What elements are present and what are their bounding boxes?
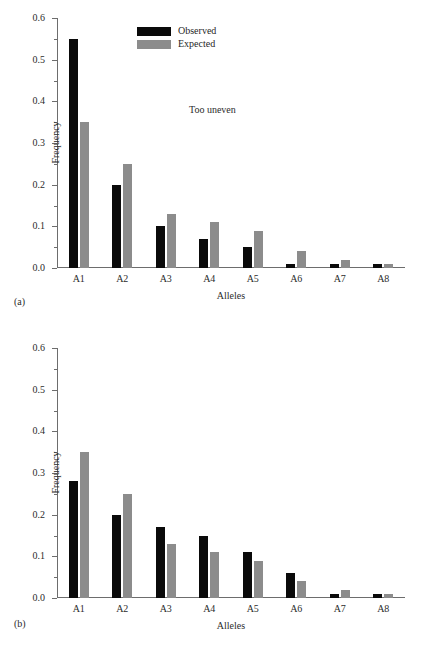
- bar-group: A8: [362, 18, 406, 268]
- bar-group: A4: [188, 348, 232, 598]
- bar-observed: [69, 481, 78, 598]
- y-tick-label: 0.1: [33, 221, 46, 231]
- bar-group: A6: [275, 348, 319, 598]
- y-tick-major: 0.0: [52, 268, 57, 269]
- bar-group: A4: [188, 18, 232, 268]
- bar-expected: [384, 264, 393, 268]
- x-tick-label: A5: [231, 273, 275, 284]
- x-tick-label: A6: [275, 603, 319, 614]
- bar-groups-a: A1A2A3A4A5A6A7A8: [57, 18, 405, 268]
- bar-observed: [330, 264, 339, 268]
- legend-a: ObservedExpected: [137, 26, 216, 49]
- bar-observed: [69, 39, 78, 268]
- x-tick-label: A6: [275, 273, 319, 284]
- x-tick-label: A2: [101, 273, 145, 284]
- bar-group: A8: [362, 348, 406, 598]
- bar-expected: [254, 231, 263, 269]
- y-tick-label: 0.4: [33, 96, 46, 106]
- y-tick-label: 0.1: [33, 551, 46, 561]
- bar-expected: [80, 122, 89, 268]
- y-tick-label: 0.4: [33, 426, 46, 436]
- bar-observed: [286, 573, 295, 598]
- y-tick-label: 0.3: [33, 468, 46, 478]
- x-tick-label: A3: [144, 603, 188, 614]
- x-tick-label: A8: [362, 273, 406, 284]
- legend-swatch-expected: [137, 40, 171, 49]
- x-tick-label: A8: [362, 603, 406, 614]
- bar-observed: [373, 594, 382, 598]
- legend-item: Observed: [137, 26, 216, 36]
- bar-observed: [373, 264, 382, 268]
- x-tick-label: A1: [57, 273, 101, 284]
- bar-observed: [199, 239, 208, 268]
- y-tick-label: 0.3: [33, 138, 46, 148]
- y-tick-major: 0.0: [52, 598, 57, 599]
- y-tick-label: 0.0: [33, 263, 46, 273]
- y-tick-label: 0.5: [33, 55, 46, 65]
- x-tick-label: A1: [57, 603, 101, 614]
- bar-group: A1: [57, 348, 101, 598]
- y-tick-label: 0.6: [33, 343, 46, 353]
- bar-group: A2: [101, 348, 145, 598]
- bar-group: A2: [101, 18, 145, 268]
- x-tick-label: A7: [318, 273, 362, 284]
- bar-group: A3: [144, 348, 188, 598]
- bar-observed: [112, 515, 121, 598]
- bar-expected: [123, 164, 132, 268]
- y-tick-label: 0.5: [33, 385, 46, 395]
- panel-caption-a: (a): [14, 296, 25, 307]
- bar-expected: [297, 581, 306, 598]
- bar-expected: [80, 452, 89, 598]
- y-axis-title-b: Frequency: [50, 433, 61, 513]
- legend-label: Expected: [178, 39, 215, 49]
- bar-observed: [156, 527, 165, 598]
- bar-observed: [243, 552, 252, 598]
- x-tick-label: A4: [188, 603, 232, 614]
- bar-observed: [112, 185, 121, 268]
- bar-group: A5: [231, 348, 275, 598]
- x-axis-title-a: Alleles: [57, 290, 405, 301]
- y-tick-label: 0.2: [33, 180, 46, 190]
- bar-expected: [210, 222, 219, 268]
- legend-swatch-observed: [137, 27, 171, 36]
- x-axis-title-b: Alleles: [57, 620, 405, 631]
- bar-observed: [286, 264, 295, 268]
- x-tick-label: A7: [318, 603, 362, 614]
- bar-expected: [384, 594, 393, 598]
- bar-group: A3: [144, 18, 188, 268]
- x-tick-label: A4: [188, 273, 232, 284]
- y-tick-label: 0.2: [33, 510, 46, 520]
- bar-expected: [167, 544, 176, 598]
- panel-caption-b: (b): [14, 618, 26, 629]
- y-tick-label: 0.0: [33, 593, 46, 603]
- x-tick-label: A5: [231, 603, 275, 614]
- legend-label: Observed: [178, 26, 216, 36]
- chart-panel-b: 0.00.10.20.30.40.50.6 A1A2A3A4A5A6A7A8 F…: [0, 320, 428, 645]
- bar-observed: [330, 594, 339, 598]
- plot-area-b: 0.00.10.20.30.40.50.6 A1A2A3A4A5A6A7A8 F…: [57, 348, 405, 598]
- bar-group: A5: [231, 18, 275, 268]
- y-tick-label: 0.6: [33, 13, 46, 23]
- chart-panel-a: 0.00.10.20.30.40.50.6 A1A2A3A4A5A6A7A8 F…: [0, 0, 428, 320]
- x-tick-label: A2: [101, 603, 145, 614]
- bar-expected: [123, 494, 132, 598]
- bar-expected: [341, 590, 350, 598]
- bar-observed: [156, 226, 165, 268]
- bar-groups-b: A1A2A3A4A5A6A7A8: [57, 348, 405, 598]
- bar-expected: [210, 552, 219, 598]
- bar-group: A7: [318, 18, 362, 268]
- bar-expected: [297, 251, 306, 268]
- bar-group: A7: [318, 348, 362, 598]
- legend-item: Expected: [137, 39, 216, 49]
- bar-expected: [167, 214, 176, 268]
- plot-area-a: 0.00.10.20.30.40.50.6 A1A2A3A4A5A6A7A8 F…: [57, 18, 405, 268]
- bar-expected: [341, 260, 350, 268]
- bar-observed: [243, 247, 252, 268]
- annotation-a: Too uneven: [189, 104, 236, 115]
- bar-group: A6: [275, 18, 319, 268]
- bar-observed: [199, 536, 208, 599]
- x-tick-label: A3: [144, 273, 188, 284]
- bar-group: A1: [57, 18, 101, 268]
- bar-expected: [254, 561, 263, 599]
- y-axis-title-a: Frequency: [50, 103, 61, 183]
